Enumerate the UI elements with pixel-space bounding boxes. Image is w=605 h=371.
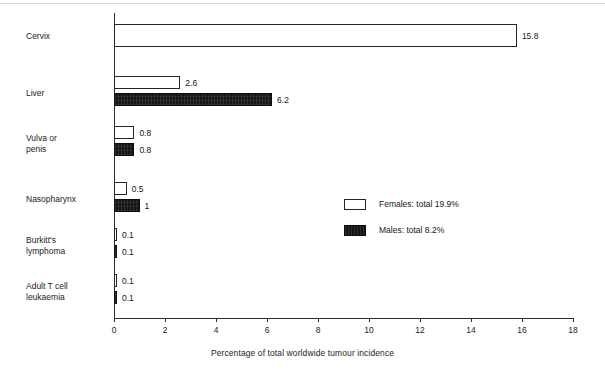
category-label-adult-t-cell-leukaemia: Adult T cell leukaemia bbox=[26, 281, 112, 302]
x-tick-label-10: 10 bbox=[357, 325, 381, 335]
x-tick-10 bbox=[369, 318, 370, 322]
bar-adult-t-cell-leukaemia-females bbox=[114, 274, 117, 287]
category-label-liver: Liver bbox=[26, 88, 112, 99]
bar-burkitt-s-lymphoma-females bbox=[114, 228, 117, 241]
scan-artifact-line bbox=[0, 3, 605, 4]
legend-swatch-males-icon bbox=[344, 225, 366, 236]
x-tick-label-0: 0 bbox=[102, 325, 126, 335]
x-tick-label-2: 2 bbox=[153, 325, 177, 335]
x-tick-label-4: 4 bbox=[204, 325, 228, 335]
x-tick-6 bbox=[267, 318, 268, 322]
category-label-vulva-or-penis: Vulva or penis bbox=[26, 133, 112, 154]
bar-value-vulva-or-penis-males: 0.8 bbox=[139, 145, 151, 155]
x-tick-label-12: 12 bbox=[408, 325, 432, 335]
x-tick-label-6: 6 bbox=[255, 325, 279, 335]
x-tick-0 bbox=[114, 318, 115, 322]
x-tick-14 bbox=[471, 318, 472, 322]
chart-figure: CervixLiverVulva or penisNasopharynxBurk… bbox=[0, 0, 605, 371]
bar-vulva-or-penis-males bbox=[114, 143, 134, 156]
x-tick-18 bbox=[573, 318, 574, 322]
x-tick-8 bbox=[318, 318, 319, 322]
legend-item-females: Females: total 19.9% bbox=[344, 198, 459, 210]
bar-value-burkitt-s-lymphoma-males: 0.1 bbox=[122, 247, 134, 257]
bar-value-liver-females: 2.6 bbox=[185, 78, 197, 88]
x-axis-spine bbox=[114, 318, 574, 319]
bar-value-adult-t-cell-leukaemia-males: 0.1 bbox=[122, 293, 134, 303]
bar-value-adult-t-cell-leukaemia-females: 0.1 bbox=[122, 276, 134, 286]
x-tick-label-18: 18 bbox=[561, 325, 585, 335]
bar-liver-males bbox=[114, 93, 272, 106]
bar-nasopharynx-females bbox=[114, 182, 127, 195]
x-tick-label-14: 14 bbox=[459, 325, 483, 335]
bar-adult-t-cell-leukaemia-males bbox=[114, 291, 117, 304]
x-tick-12 bbox=[420, 318, 421, 322]
bar-value-cervix-females: 15.8 bbox=[522, 31, 539, 41]
bar-value-liver-males: 6.2 bbox=[277, 95, 289, 105]
bar-cervix-females bbox=[114, 24, 517, 47]
category-label-burkitt-s-lymphoma: Burkitt's lymphoma bbox=[26, 235, 112, 256]
category-label-nasopharynx: Nasopharynx bbox=[26, 194, 112, 205]
bar-liver-females bbox=[114, 76, 180, 89]
bar-burkitt-s-lymphoma-males bbox=[114, 245, 117, 258]
chart-legend: Females: total 19.9% Males: total 8.2% bbox=[344, 198, 459, 250]
x-tick-2 bbox=[165, 318, 166, 322]
legend-item-males: Males: total 8.2% bbox=[344, 224, 459, 236]
bar-nasopharynx-males bbox=[114, 199, 140, 212]
category-label-cervix: Cervix bbox=[26, 31, 112, 42]
legend-swatch-females-icon bbox=[344, 199, 366, 210]
x-tick-label-16: 16 bbox=[510, 325, 534, 335]
bar-value-burkitt-s-lymphoma-females: 0.1 bbox=[122, 230, 134, 240]
legend-label-males: Males: total 8.2% bbox=[379, 225, 444, 235]
x-axis-title: Percentage of total worldwide tumour inc… bbox=[0, 348, 605, 358]
x-tick-16 bbox=[522, 318, 523, 322]
bar-vulva-or-penis-females bbox=[114, 126, 134, 139]
x-tick-4 bbox=[216, 318, 217, 322]
legend-label-females: Females: total 19.9% bbox=[379, 199, 459, 209]
x-tick-label-8: 8 bbox=[306, 325, 330, 335]
bar-value-nasopharynx-males: 1 bbox=[145, 201, 150, 211]
bar-value-nasopharynx-females: 0.5 bbox=[132, 184, 144, 194]
bar-value-vulva-or-penis-females: 0.8 bbox=[139, 128, 151, 138]
